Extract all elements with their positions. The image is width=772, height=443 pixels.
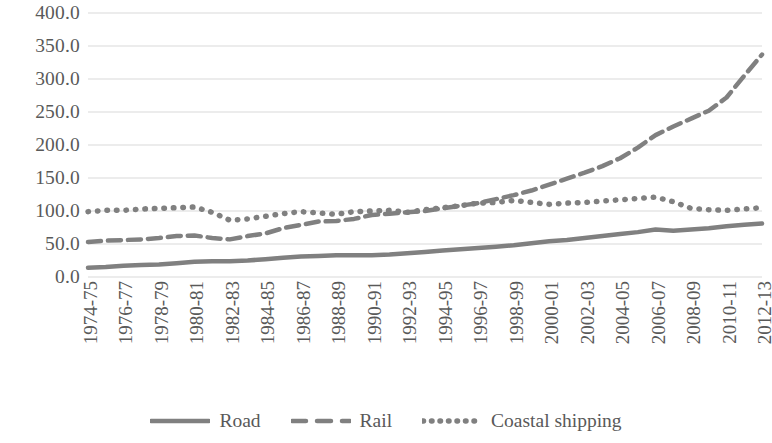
- x-axis-tick-label: 2004-05: [613, 281, 632, 391]
- x-axis-tick-label: 1998-99: [507, 281, 526, 391]
- x-axis-tick-label: 1986-87: [294, 281, 313, 391]
- x-axis-tick-label: 1992-93: [400, 281, 419, 391]
- chart-legend: RoadRailCoastal shipping: [0, 404, 772, 438]
- y-axis-tick-label: 200.0: [0, 135, 80, 155]
- legend-label: Road: [219, 411, 260, 431]
- x-axis-tick-label: 2008-09: [684, 281, 703, 391]
- y-axis-tick-label: 150.0: [0, 168, 80, 188]
- x-axis-tick-label: 2012-13: [755, 281, 772, 391]
- x-axis-tick-label: 1974-75: [81, 281, 100, 391]
- x-axis-tick-label: 2002-03: [578, 281, 597, 391]
- series-line-rail: [88, 55, 762, 242]
- x-axis-tick-label: 1984-85: [258, 281, 277, 391]
- legend-item-road[interactable]: Road: [150, 411, 260, 431]
- x-axis-tick-label: 1994-95: [436, 281, 455, 391]
- y-axis-tick-label: 50.0: [0, 234, 80, 254]
- y-axis-tick-label: 250.0: [0, 102, 80, 122]
- legend-item-coastal-shipping[interactable]: Coastal shipping: [422, 411, 622, 431]
- y-axis-tick-label: 400.0: [0, 3, 80, 23]
- series-line-road: [88, 224, 762, 268]
- x-axis-tick-label: 1980-81: [187, 281, 206, 391]
- x-axis-tick-label: 1982-83: [223, 281, 242, 391]
- y-axis: 400.0350.0300.0250.0200.0150.0100.050.00…: [0, 0, 80, 290]
- y-axis-tick-label: 100.0: [0, 201, 80, 221]
- y-axis-tick-label: 0.0: [0, 267, 80, 287]
- x-axis: 1974-751976-771978-791980-811982-831984-…: [88, 281, 762, 393]
- x-axis-tick-label: 2010-11: [720, 281, 739, 391]
- legend-label: Rail: [360, 411, 393, 431]
- x-axis-tick-label: 1988-89: [329, 281, 348, 391]
- x-axis-tick-label: 2000-01: [542, 281, 561, 391]
- x-axis-tick-label: 2006-07: [649, 281, 668, 391]
- series-lines: [88, 13, 762, 277]
- x-axis-tick-label: 1990-91: [365, 281, 384, 391]
- x-axis-tick-label: 1976-77: [116, 281, 135, 391]
- legend-item-rail[interactable]: Rail: [291, 411, 393, 431]
- x-axis-tick-label: 1978-79: [152, 281, 171, 391]
- legend-label: Coastal shipping: [491, 411, 622, 431]
- solid-line-swatch: [150, 413, 210, 429]
- x-axis-tick-label: 1996-97: [471, 281, 490, 391]
- series-line-coastal-shipping: [88, 197, 762, 220]
- dashed-line-swatch: [291, 413, 351, 429]
- line-chart: 400.0350.0300.0250.0200.0150.0100.050.00…: [0, 0, 772, 443]
- dotted-line-swatch: [422, 413, 482, 429]
- y-axis-tick-label: 350.0: [0, 36, 80, 56]
- y-axis-tick-label: 300.0: [0, 69, 80, 89]
- plot-area: [88, 13, 762, 277]
